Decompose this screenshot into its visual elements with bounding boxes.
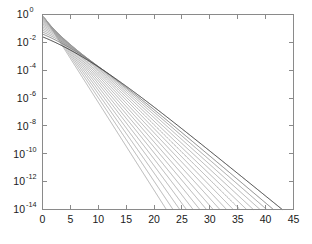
y-tick-label-mantissa: 10 (13, 148, 25, 160)
y-tick-label-mantissa: 10 (13, 203, 25, 215)
x-tick-label: 30 (204, 213, 216, 225)
data-curves-group (43, 16, 283, 210)
plot-border (43, 15, 294, 210)
x-tick-label: 35 (232, 213, 244, 225)
plot-canvas: 051015202530354045 10010-210-410-610-810… (0, 0, 312, 244)
y-tick-label-mantissa: 10 (17, 92, 29, 104)
axes-group (43, 15, 294, 210)
y-tick-label-mantissa: 10 (17, 120, 29, 132)
x-axis-tick-labels: 051015202530354045 (40, 213, 300, 225)
x-tick-label: 45 (288, 213, 300, 225)
y-tick-label-exponent: -6 (30, 89, 36, 98)
x-tick-label: 5 (67, 213, 73, 225)
x-tick-label: 25 (176, 213, 188, 225)
y-tick-label-exponent: -14 (26, 200, 36, 209)
x-tick-label: 0 (40, 213, 46, 225)
y-tick-label-exponent: 0 (30, 5, 34, 14)
y-tick-label-mantissa: 10 (17, 8, 29, 20)
x-tick-label: 20 (148, 213, 160, 225)
y-tick-label-mantissa: 10 (17, 64, 29, 76)
semilog-convergence-figure: 051015202530354045 10010-210-410-610-810… (0, 0, 312, 244)
y-tick-label-exponent: -10 (26, 145, 36, 154)
x-tick-label: 10 (92, 213, 104, 225)
y-axis-tick-labels: 10010-210-410-610-810-1010-1210-14 (13, 5, 36, 215)
y-tick-label-exponent: -2 (30, 33, 36, 42)
x-tick-label: 15 (120, 213, 132, 225)
data-curve (43, 17, 187, 210)
x-tick-label: 40 (260, 213, 272, 225)
data-curve (43, 19, 200, 210)
y-tick-label-mantissa: 10 (17, 36, 29, 48)
y-tick-label-exponent: -8 (30, 117, 36, 126)
y-tick-label-exponent: -12 (26, 172, 36, 181)
y-tick-label-exponent: -4 (30, 61, 36, 70)
y-tick-label-mantissa: 10 (13, 175, 25, 187)
